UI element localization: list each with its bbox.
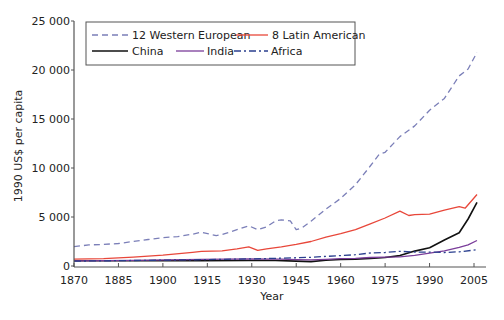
x-tick-label: 1945: [282, 274, 310, 287]
series-line-china: [74, 202, 477, 261]
x-tick-label: 1930: [238, 274, 266, 287]
line-chart: 05 00010 00015 00020 00025 000 187018851…: [0, 0, 504, 320]
x-tick-label: 1975: [371, 274, 399, 287]
y-tick-label: 15 000: [32, 113, 71, 126]
y-axis-title: 1990 US$ per capita: [12, 90, 25, 203]
series-lines: [74, 52, 477, 261]
x-tick-label: 1900: [149, 274, 177, 287]
x-tick-label: 1870: [60, 274, 88, 287]
x-tick-label: 1960: [327, 274, 355, 287]
x-axis-title: Year: [259, 290, 284, 303]
x-tick-label: 2005: [460, 274, 488, 287]
y-tick-label: 25 000: [32, 15, 71, 28]
legend-label: 8 Latin American: [272, 29, 366, 42]
legend-label: India: [207, 45, 234, 58]
x-tick-label: 1915: [193, 274, 221, 287]
legend: 12 Western European 8 Latin American Chi…: [86, 22, 366, 65]
legend-label: 12 Western European: [132, 29, 251, 42]
y-tick-label: 10 000: [32, 162, 71, 175]
y-tick-label: 20 000: [32, 64, 71, 77]
x-tick-label: 1990: [416, 274, 444, 287]
series-line-12-western-european: [74, 52, 477, 246]
x-tick-label: 1885: [104, 274, 132, 287]
legend-label: Africa: [271, 45, 302, 58]
series-line-8-latin-american: [74, 195, 477, 260]
y-tick-label: 0: [63, 260, 70, 273]
legend-label: China: [132, 45, 163, 58]
y-tick-label: 5 000: [39, 211, 71, 224]
y-axis-ticks: 05 00010 00015 00020 00025 000: [32, 15, 75, 273]
